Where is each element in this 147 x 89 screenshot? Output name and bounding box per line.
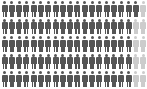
person-icon <box>45 19 52 35</box>
person-icon <box>110 36 117 52</box>
person-icon <box>1 71 8 87</box>
person-icon <box>125 54 132 70</box>
person-icon <box>23 54 30 70</box>
person-icon <box>59 71 66 87</box>
person-icon <box>96 1 103 17</box>
person-icon <box>45 54 52 70</box>
person-icon <box>8 71 15 87</box>
person-icon <box>74 36 81 52</box>
person-icon <box>16 71 23 87</box>
person-icon <box>1 36 8 52</box>
person-icon <box>125 71 132 87</box>
person-icon <box>103 1 110 17</box>
person-icon <box>118 54 125 70</box>
pictograph-chart <box>0 0 147 89</box>
person-icon <box>118 1 125 17</box>
person-icon <box>52 36 59 52</box>
person-icon <box>89 71 96 87</box>
person-icon <box>52 19 59 35</box>
icon-row <box>1 36 147 52</box>
person-icon <box>103 19 110 35</box>
person-icon <box>140 19 147 35</box>
person-icon <box>52 54 59 70</box>
person-icon <box>67 54 74 70</box>
icon-row <box>1 71 147 87</box>
person-icon <box>89 36 96 52</box>
person-icon <box>74 54 81 70</box>
person-icon <box>125 36 132 52</box>
person-icon <box>110 71 117 87</box>
person-icon <box>96 36 103 52</box>
person-icon <box>89 19 96 35</box>
person-icon <box>37 36 44 52</box>
icon-row <box>1 19 147 35</box>
person-icon <box>81 71 88 87</box>
person-icon <box>67 71 74 87</box>
person-icon <box>45 36 52 52</box>
person-icon <box>1 19 8 35</box>
person-icon <box>96 54 103 70</box>
person-icon <box>74 1 81 17</box>
person-icon <box>59 54 66 70</box>
person-icon <box>37 1 44 17</box>
person-icon <box>30 1 37 17</box>
person-icon <box>89 54 96 70</box>
person-icon <box>23 36 30 52</box>
person-icon <box>30 36 37 52</box>
person-icon <box>140 36 147 52</box>
person-icon <box>132 1 139 17</box>
person-icon <box>132 19 139 35</box>
person-icon <box>132 71 139 87</box>
person-icon <box>67 19 74 35</box>
person-icon <box>140 54 147 70</box>
person-icon <box>37 19 44 35</box>
person-icon <box>30 71 37 87</box>
person-icon <box>1 1 8 17</box>
person-icon <box>132 54 139 70</box>
person-icon <box>52 71 59 87</box>
person-icon <box>96 71 103 87</box>
person-icon <box>59 1 66 17</box>
person-icon <box>23 71 30 87</box>
person-icon <box>74 71 81 87</box>
person-icon <box>45 1 52 17</box>
icon-row <box>1 54 147 70</box>
person-icon <box>30 19 37 35</box>
person-icon <box>118 19 125 35</box>
person-icon <box>140 71 147 87</box>
person-icon <box>1 54 8 70</box>
person-icon <box>37 54 44 70</box>
person-icon <box>45 71 52 87</box>
person-icon <box>8 1 15 17</box>
person-icon <box>110 54 117 70</box>
person-icon <box>96 19 103 35</box>
person-icon <box>59 36 66 52</box>
person-icon <box>81 19 88 35</box>
person-icon <box>74 19 81 35</box>
person-icon <box>8 54 15 70</box>
person-icon <box>23 1 30 17</box>
person-icon <box>8 19 15 35</box>
person-icon <box>110 1 117 17</box>
person-icon <box>118 71 125 87</box>
person-icon <box>81 54 88 70</box>
person-icon <box>81 36 88 52</box>
person-icon <box>132 36 139 52</box>
person-icon <box>125 19 132 35</box>
person-icon <box>16 19 23 35</box>
person-icon <box>59 19 66 35</box>
person-icon <box>103 54 110 70</box>
person-icon <box>103 36 110 52</box>
person-icon <box>16 1 23 17</box>
person-icon <box>118 36 125 52</box>
person-icon <box>125 1 132 17</box>
person-icon <box>103 71 110 87</box>
person-icon <box>67 1 74 17</box>
person-icon <box>16 36 23 52</box>
person-icon <box>140 1 147 17</box>
person-icon <box>81 1 88 17</box>
person-icon <box>16 54 23 70</box>
person-icon <box>52 1 59 17</box>
person-icon <box>89 1 96 17</box>
person-icon <box>8 36 15 52</box>
